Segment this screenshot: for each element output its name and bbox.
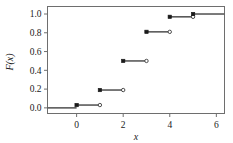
step-open-marker: [168, 30, 171, 33]
x-tick-label: 0: [74, 120, 79, 130]
step-filled-marker: [168, 15, 171, 18]
step-filled-marker: [145, 30, 148, 33]
y-tick-label: 0.8: [30, 28, 42, 38]
y-tick-label: 0.0: [30, 103, 42, 113]
step-open-marker: [121, 88, 124, 91]
step-filled-marker: [75, 103, 78, 106]
cdf-step-plot: 0.00.20.40.60.81.0 0246 x F(x): [0, 0, 233, 143]
chart-figure: 0.00.20.40.60.81.0 0246 x F(x): [0, 0, 233, 143]
step-open-marker: [98, 103, 101, 106]
step-filled-marker: [121, 59, 124, 62]
step-open-marker: [145, 59, 148, 62]
x-tick-label: 2: [121, 120, 126, 130]
x-tick-label: 4: [167, 120, 172, 130]
x-tick-label: 6: [214, 120, 219, 130]
y-tick-label: 1.0: [30, 9, 42, 19]
step-filled-marker: [191, 12, 194, 15]
y-tick-label: 0.6: [30, 47, 42, 57]
y-axis-title: F(x): [4, 53, 16, 72]
step-filled-marker: [98, 88, 101, 91]
y-tick-label: 0.4: [30, 66, 42, 76]
x-axis-title: x: [133, 131, 139, 142]
y-tick-label: 0.2: [30, 84, 42, 94]
